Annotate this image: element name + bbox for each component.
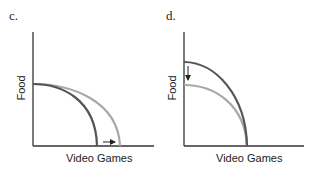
panel-d-new-ppf-curve <box>184 85 247 146</box>
panel-c-original-ppf-curve <box>33 84 97 146</box>
panel-c-axes <box>33 32 154 146</box>
panel-c-new-ppf-curve <box>33 84 120 146</box>
ppf-charts <box>0 0 314 177</box>
panel-d-original-ppf-curve <box>184 62 247 146</box>
